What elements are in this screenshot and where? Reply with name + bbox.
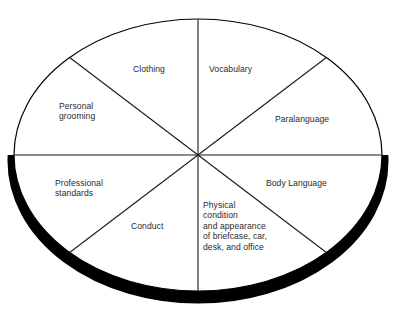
professional-image-wheel-diagram [0, 0, 396, 319]
segment-label-physical-condition: Physical condition and appearance of bri… [203, 200, 267, 252]
segment-label-paralanguage: Paralanguage [275, 114, 329, 124]
segment-label-vocabulary: Vocabulary [209, 64, 252, 74]
segment-label-body-language: Body Language [266, 178, 327, 188]
segment-label-clothing: Clothing [133, 64, 165, 74]
segment-label-personal-grooming: Personal grooming [59, 101, 95, 122]
segment-label-professional-standards: Professional standards [55, 178, 103, 199]
segment-label-conduct: Conduct [131, 221, 163, 231]
